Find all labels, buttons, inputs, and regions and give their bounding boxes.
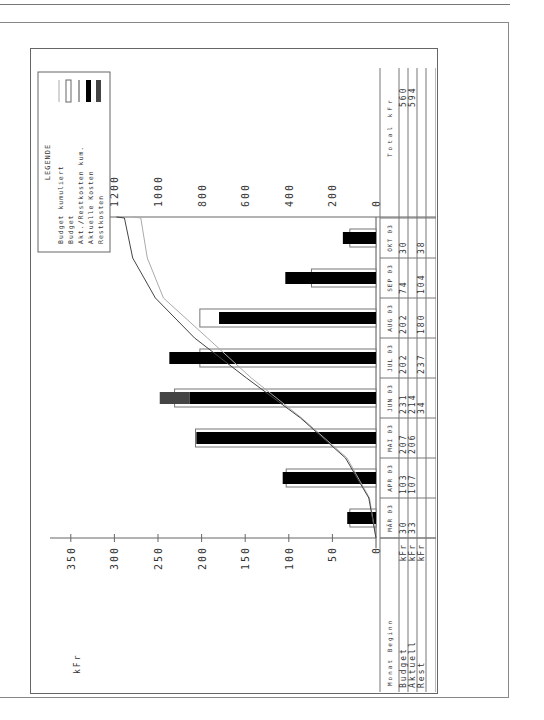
month-label: AUG 03 xyxy=(386,304,393,332)
table-cell: 107 xyxy=(408,474,417,494)
left-tick-label: 250 xyxy=(153,546,164,570)
month-label: JUL 03 xyxy=(386,344,393,372)
rest-cost-bar xyxy=(160,392,190,404)
legend-label: Budget xyxy=(67,215,75,244)
row-unit: kFr xyxy=(399,544,408,561)
left-axis-unit: kFr xyxy=(73,654,82,674)
table-total-cell: 594 xyxy=(408,87,417,107)
left-tick-label: 350 xyxy=(66,546,77,570)
legend-label: Aktuelle Kosten xyxy=(87,170,95,244)
row-unit: kFr xyxy=(408,544,417,561)
table-total-cell: 560 xyxy=(399,87,408,107)
table-cell: 30 xyxy=(399,240,408,254)
month-label: MAI 03 xyxy=(386,424,393,452)
table-cell: 104 xyxy=(417,274,426,294)
month-label: MÄR 03 xyxy=(386,504,393,532)
table-cell: 202 xyxy=(399,354,408,374)
actual-cost-bar xyxy=(189,392,376,404)
legend-label: Akt./Restkosten kum. xyxy=(77,146,85,244)
table-cell: 206 xyxy=(408,434,417,454)
legend-title: LEGENDE xyxy=(44,144,52,181)
right-tick-label: 1200 xyxy=(109,175,120,207)
table-cell: 180 xyxy=(417,314,426,334)
row-label: Budget xyxy=(399,647,408,688)
month-label: SEP 03 xyxy=(386,264,393,292)
table-cell: 214 xyxy=(408,394,417,414)
table-cell: 74 xyxy=(399,280,408,294)
table-cell: 34 xyxy=(417,400,426,414)
table-cell: 103 xyxy=(399,474,408,494)
table-cell: 38 xyxy=(417,240,426,254)
left-tick-label: 100 xyxy=(284,546,295,570)
month-label: OKT 03 xyxy=(386,224,393,252)
actual-cost-bar xyxy=(196,432,376,444)
rest-cost-bar xyxy=(219,312,376,324)
right-tick-label: 1000 xyxy=(153,175,164,207)
rest-cost-bar xyxy=(169,352,376,364)
table-cell: 237 xyxy=(417,354,426,374)
right-tick-label: 200 xyxy=(327,183,338,207)
rest-cost-bar xyxy=(285,272,376,284)
cost-chart: 050100150200250300350kFr0200400600800100… xyxy=(30,48,436,692)
right-tick-label: 600 xyxy=(240,183,251,207)
right-tick-label: 800 xyxy=(197,183,208,207)
left-tick-label: 200 xyxy=(197,546,208,570)
table-cell: 202 xyxy=(399,314,408,334)
rest-cost-bar xyxy=(343,232,376,244)
table-cell: 207 xyxy=(399,434,408,454)
table-cell: 30 xyxy=(399,520,408,534)
legend-swatch-rest xyxy=(96,80,101,102)
total-header: Total kFr xyxy=(386,97,393,157)
table-header-label: Monat Beginn xyxy=(386,619,394,686)
left-tick-label: 50 xyxy=(327,546,338,562)
actual-rest-cumulative-line xyxy=(116,217,376,538)
row-label: Rest xyxy=(417,661,426,688)
actual-cost-bar xyxy=(283,472,376,484)
month-label: APR 03 xyxy=(386,464,393,492)
page-top-rule xyxy=(0,4,510,5)
left-tick-label: 300 xyxy=(109,546,120,570)
legend-label: Budget kumuliert xyxy=(57,165,65,244)
row-unit: kFr xyxy=(417,544,426,561)
budget-cumulative-line xyxy=(133,217,376,538)
left-tick-label: 150 xyxy=(240,546,251,570)
legend-swatch-aktuell xyxy=(86,80,91,102)
rotated-chart-canvas: 050100150200250300350kFr0200400600800100… xyxy=(30,48,436,692)
table-cell: 231 xyxy=(399,394,408,414)
legend-label: Restkosten xyxy=(97,195,105,244)
table-cell: 33 xyxy=(408,520,417,534)
row-label: Aktuell xyxy=(408,640,417,688)
legend-swatch-budget xyxy=(66,80,71,102)
month-label: JUN 03 xyxy=(386,384,393,412)
right-tick-label: 400 xyxy=(284,183,295,207)
